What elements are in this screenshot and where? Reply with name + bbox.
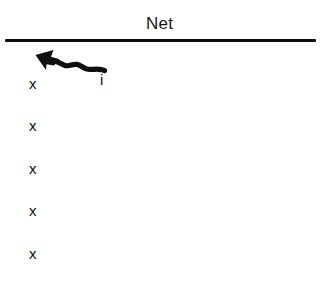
x-mark: x bbox=[29, 76, 37, 92]
zigzag-arrow-icon bbox=[33, 48, 109, 76]
x-mark: x bbox=[29, 203, 37, 219]
arrow-source-label-i: i bbox=[100, 72, 103, 88]
net-label: Net bbox=[146, 14, 173, 33]
x-mark: x bbox=[29, 161, 37, 177]
x-mark: x bbox=[29, 118, 37, 134]
net-line bbox=[5, 39, 316, 42]
figure-canvas: Net i x x x x x bbox=[0, 0, 324, 304]
x-mark: x bbox=[29, 246, 37, 262]
